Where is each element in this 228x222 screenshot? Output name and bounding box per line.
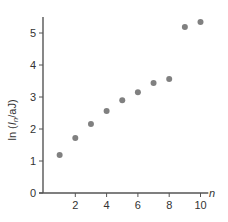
y-tick-label: 5 <box>30 27 36 39</box>
x-axis-label: n <box>209 187 215 199</box>
y-tick-label: 0 <box>30 187 36 199</box>
data-point <box>72 135 78 141</box>
data-point <box>88 121 94 127</box>
x-tick-label: 8 <box>166 199 172 211</box>
y-axis: 012345 <box>30 17 43 199</box>
y-tick-label: 2 <box>30 123 36 135</box>
x-tick-label: 6 <box>135 199 141 211</box>
y-tick-label: 4 <box>30 59 36 71</box>
x-axis: 246810 <box>39 193 208 211</box>
data-points <box>57 19 204 158</box>
data-point <box>135 89 141 95</box>
data-point <box>151 80 157 86</box>
y-tick-label: 1 <box>30 155 36 167</box>
data-point <box>198 19 204 25</box>
y-axis-label: ln (In/aJ) <box>6 99 20 140</box>
y-tick-label: 3 <box>30 91 36 103</box>
x-tick-label: 10 <box>194 199 206 211</box>
data-point <box>166 76 172 82</box>
data-point <box>57 152 63 158</box>
data-point <box>119 97 125 103</box>
scatter-chart: 012345 246810 ln (In/aJ) n <box>0 0 228 222</box>
x-tick-label: 2 <box>72 199 78 211</box>
x-tick-label: 4 <box>104 199 110 211</box>
data-point <box>104 108 110 114</box>
data-point <box>182 24 188 30</box>
